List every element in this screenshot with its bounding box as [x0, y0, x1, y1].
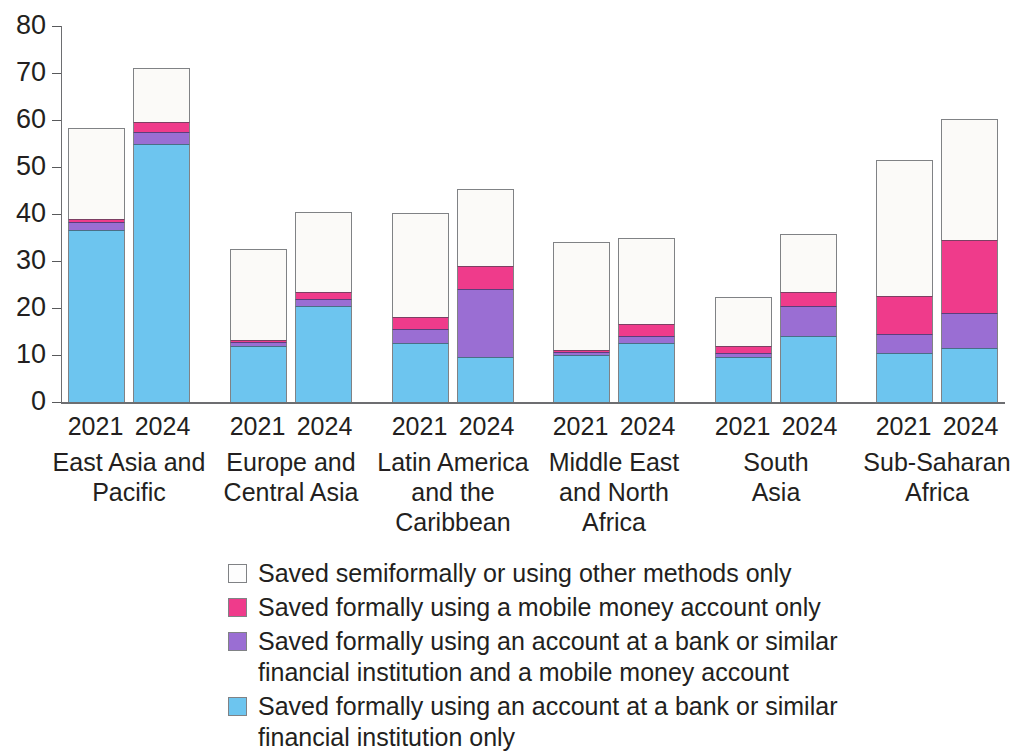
- bar-segment-purple: [68, 222, 125, 229]
- bar-segment-blue: [941, 348, 998, 402]
- bar-south-asia-2024: [780, 234, 837, 402]
- x-axis-year-label: 2024: [619, 410, 676, 442]
- bar-segment-pink: [780, 292, 837, 306]
- bar-sub-saharan-africa-2024: [941, 119, 998, 402]
- x-axis-group-4: 20212024South Asia: [693, 410, 859, 507]
- x-axis-year-label: 2021: [875, 410, 932, 442]
- x-axis-year-row: 20212024: [693, 410, 859, 442]
- bar-europe-and-central-asia-2021: [230, 249, 287, 402]
- x-axis-year-label: 2024: [942, 410, 999, 442]
- legend-label: Saved semiformally or using other method…: [258, 558, 792, 589]
- legend-swatch-white: [228, 564, 247, 583]
- bar-segment-blue: [133, 144, 190, 403]
- bar-segment-white: [133, 68, 190, 123]
- x-axis-region-label: Europe and Central Asia: [208, 447, 374, 507]
- bar-sub-saharan-africa-2021: [876, 160, 933, 402]
- bar-segment-blue: [618, 343, 675, 402]
- x-axis-year-row: 20212024: [208, 410, 374, 442]
- bar-segment-white: [68, 128, 125, 219]
- legend-item-3[interactable]: Saved formally using an account at a ban…: [228, 691, 928, 753]
- legend-item-2[interactable]: Saved formally using an account at a ban…: [228, 626, 928, 688]
- x-axis-region-label: Sub-Saharan Africa: [854, 447, 1013, 507]
- x-axis-group-2: 20212024Latin America and the Caribbean: [370, 410, 536, 537]
- x-axis-year-label: 2024: [458, 410, 515, 442]
- bar-east-asia-and-pacific-2021: [68, 128, 125, 402]
- x-axis-group-5: 20212024Sub-Saharan Africa: [854, 410, 1013, 507]
- x-axis-group-3: 20212024Middle East and North Africa: [531, 410, 697, 537]
- bar-segment-white: [780, 234, 837, 292]
- x-axis-year-label: 2024: [781, 410, 838, 442]
- legend-swatch-purple: [228, 632, 247, 651]
- bar-east-asia-and-pacific-2024: [133, 68, 190, 402]
- x-axis-year-label: 2024: [134, 410, 191, 442]
- legend-swatch-pink: [228, 598, 247, 617]
- bar-segment-purple: [295, 299, 352, 306]
- x-axis-year-label: 2021: [714, 410, 771, 442]
- x-axis-year-label: 2024: [296, 410, 353, 442]
- chart-legend: Saved semiformally or using other method…: [228, 558, 928, 755]
- bar-segment-white: [876, 160, 933, 296]
- x-axis-region-label: Latin America and the Caribbean: [370, 447, 536, 537]
- x-axis-labels: 20212024East Asia and Pacific20212024Eur…: [0, 410, 1013, 540]
- bar-segment-blue: [295, 306, 352, 402]
- bar-segment-purple: [780, 306, 837, 337]
- bar-segment-pink: [457, 266, 514, 290]
- x-axis-year-row: 20212024: [46, 410, 212, 442]
- bar-segment-purple: [133, 132, 190, 144]
- bar-segment-white: [230, 249, 287, 340]
- bar-segment-pink: [295, 292, 352, 299]
- bar-segment-white: [941, 119, 998, 240]
- bar-segment-pink: [133, 122, 190, 131]
- bar-segment-purple: [457, 289, 514, 357]
- x-axis-year-label: 2021: [67, 410, 124, 442]
- x-axis-year-row: 20212024: [531, 410, 697, 442]
- x-axis-region-label: South Asia: [693, 447, 859, 507]
- bar-segment-pink: [392, 317, 449, 329]
- x-axis-group-1: 20212024Europe and Central Asia: [208, 410, 374, 507]
- bar-segment-white: [715, 297, 772, 345]
- bar-segment-white: [392, 213, 449, 318]
- x-axis-year-label: 2021: [391, 410, 448, 442]
- x-axis-year-row: 20212024: [370, 410, 536, 442]
- bar-segment-pink: [876, 296, 933, 334]
- bar-segment-blue: [553, 355, 610, 402]
- legend-item-0[interactable]: Saved semiformally or using other method…: [228, 558, 928, 589]
- bar-segment-blue: [457, 357, 514, 402]
- plot-area: 80706050403020100 20212024East Asia and …: [0, 0, 1013, 540]
- bar-segment-white: [457, 189, 514, 266]
- bar-latin-america-and-the-caribbean-2021: [392, 213, 449, 402]
- bar-segment-pink: [618, 324, 675, 336]
- bar-segment-purple: [618, 336, 675, 343]
- bar-segment-purple: [392, 329, 449, 343]
- legend-label: Saved formally using a mobile money acco…: [258, 592, 821, 623]
- bar-segment-purple: [941, 313, 998, 348]
- legend-label: Saved formally using an account at a ban…: [258, 691, 837, 753]
- x-axis-group-0: 20212024East Asia and Pacific: [46, 410, 212, 507]
- bar-segment-blue: [715, 357, 772, 402]
- bar-middle-east-and-north-africa-2024: [618, 238, 675, 402]
- bar-segment-blue: [392, 343, 449, 402]
- bar-segment-pink: [941, 240, 998, 313]
- bar-segment-pink: [715, 346, 772, 353]
- legend-label: Saved formally using an account at a ban…: [258, 626, 837, 688]
- legend-item-1[interactable]: Saved formally using a mobile money acco…: [228, 592, 928, 623]
- bar-south-asia-2021: [715, 297, 772, 402]
- bar-latin-america-and-the-caribbean-2024: [457, 189, 514, 402]
- x-axis-year-row: 20212024: [854, 410, 1013, 442]
- x-axis-region-label: Middle East and North Africa: [531, 447, 697, 537]
- x-axis-year-label: 2021: [552, 410, 609, 442]
- bar-middle-east-and-north-africa-2021: [553, 242, 610, 402]
- legend-swatch-blue: [228, 697, 247, 716]
- bar-segment-blue: [780, 336, 837, 402]
- bar-segment-blue: [876, 353, 933, 402]
- bar-europe-and-central-asia-2024: [295, 212, 352, 402]
- bar-segment-white: [618, 238, 675, 325]
- bars-layer: [0, 0, 1013, 404]
- bar-segment-purple: [876, 334, 933, 353]
- x-axis-year-label: 2021: [229, 410, 286, 442]
- bar-segment-blue: [68, 230, 125, 402]
- bar-segment-blue: [230, 346, 287, 402]
- bar-segment-white: [553, 242, 610, 350]
- bar-segment-white: [295, 212, 352, 292]
